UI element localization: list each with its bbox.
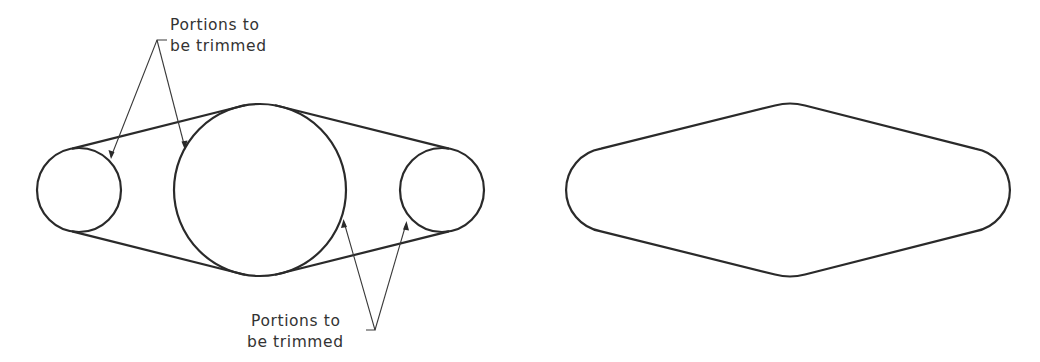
untrimmed-view: Portions to be trimmed Portions to be tr… <box>37 16 484 351</box>
callout-label-top-line1: Portions to <box>170 16 260 34</box>
tangent-line-top-left <box>72 105 245 148</box>
callout-label-bottom-line1: Portions to <box>251 312 341 330</box>
arrowhead-icon <box>403 221 409 231</box>
trimmed-outline <box>566 104 1010 277</box>
callout-label-top-line2: be trimmed <box>170 37 267 55</box>
trim-diagram: Portions to be trimmed Portions to be tr… <box>0 0 1040 362</box>
tangent-line-bottom-right <box>275 231 449 274</box>
right-small-circle <box>400 148 484 232</box>
bottom-callout-leader <box>341 219 409 330</box>
center-large-circle <box>174 104 346 276</box>
left-small-circle <box>37 148 121 232</box>
top-callout-leader <box>109 40 188 159</box>
callout-label-bottom-line2: be trimmed <box>247 333 344 351</box>
tangent-line-top-right <box>275 105 449 148</box>
arrowhead-icon <box>341 219 347 228</box>
tangent-line-bottom-left <box>72 231 245 274</box>
